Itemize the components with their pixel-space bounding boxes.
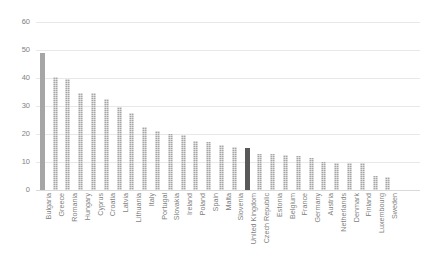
bar-united-kingdom[interactable] <box>245 148 250 190</box>
x-axis-slot: Slovenia <box>228 193 241 273</box>
x-axis-slot: United Kingdom <box>241 193 254 273</box>
bar-slot <box>138 22 151 190</box>
x-axis-slot: Austria <box>318 193 331 273</box>
bar-netherlands[interactable] <box>334 163 339 190</box>
y-axis-tick-label: 20 <box>22 130 30 138</box>
bar-slot <box>215 22 228 190</box>
y-axis-tick-label: 0 <box>26 186 30 194</box>
y-axis-tick-label: 50 <box>22 46 30 54</box>
bar-slot <box>254 22 267 190</box>
bar-slot <box>126 22 139 190</box>
y-axis-tick-label: 10 <box>22 158 30 166</box>
bar-germany[interactable] <box>309 158 314 190</box>
x-axis-tick-label: Sweden <box>391 193 398 219</box>
x-axis-slot: Germany <box>305 193 318 273</box>
bar-slot <box>305 22 318 190</box>
bar-slovenia[interactable] <box>232 147 237 190</box>
y-axis-tick-label: 40 <box>22 74 30 82</box>
bar-slot <box>266 22 279 190</box>
x-axis-slot: Greece <box>49 193 62 273</box>
bar-slot <box>369 22 382 190</box>
bar-slot <box>151 22 164 190</box>
bar-sweden[interactable] <box>385 177 390 190</box>
y-axis-tick-label: 30 <box>22 102 30 110</box>
bar-slot <box>292 22 305 190</box>
x-axis-slot: Slovakia <box>164 193 177 273</box>
bar-slovakia[interactable] <box>168 134 173 190</box>
bar-romania[interactable] <box>65 79 70 190</box>
x-axis-slot: Latvia <box>113 193 126 273</box>
bar-slot <box>228 22 241 190</box>
x-axis-slot: Finland <box>356 193 369 273</box>
bar-slot <box>318 22 331 190</box>
y-axis: 0102030405060 <box>0 0 36 276</box>
bar-malta[interactable] <box>219 145 224 190</box>
bar-slot <box>343 22 356 190</box>
bar-chart: 0102030405060 BulgariaGreeceRomaniaHunga… <box>0 0 424 276</box>
bar-slot <box>113 22 126 190</box>
x-axis-slot: Spain <box>202 193 215 273</box>
x-axis-slot: Estonia <box>266 193 279 273</box>
bar-lithuania[interactable] <box>129 113 134 190</box>
bar-latvia[interactable] <box>117 107 122 190</box>
bar-portugal[interactable] <box>155 131 160 190</box>
x-axis-slot: France <box>292 193 305 273</box>
bar-slot <box>177 22 190 190</box>
bar-slot <box>382 22 395 190</box>
x-axis-slot: Ireland <box>177 193 190 273</box>
bar-hungary[interactable] <box>78 93 83 190</box>
bar-estonia[interactable] <box>270 154 275 190</box>
bar-belgium[interactable] <box>283 155 288 190</box>
bar-slot <box>241 22 254 190</box>
bar-slot <box>100 22 113 190</box>
bar-cyprus[interactable] <box>91 93 96 190</box>
bar-slot <box>356 22 369 190</box>
bar-bulgaria[interactable] <box>40 53 45 190</box>
x-axis-slot: Netherlands <box>330 193 343 273</box>
bar-series <box>36 22 420 190</box>
bar-spain[interactable] <box>206 142 211 190</box>
x-axis-slot: Portugal <box>151 193 164 273</box>
bar-slot <box>164 22 177 190</box>
x-axis-slot: Sweden <box>382 193 395 273</box>
bar-slot <box>36 22 49 190</box>
bar-slot <box>202 22 215 190</box>
x-axis-slot: Czech Republic <box>254 193 267 273</box>
bar-ireland[interactable] <box>181 135 186 190</box>
bar-france[interactable] <box>296 156 301 190</box>
x-axis-slot: Romania <box>62 193 75 273</box>
x-axis-slot: Hungary <box>74 193 87 273</box>
x-axis-slot: Cyprus <box>87 193 100 273</box>
x-axis: BulgariaGreeceRomaniaHungaryCyprusCroati… <box>36 193 420 273</box>
x-axis-slot: Lithuania <box>126 193 139 273</box>
x-axis-slot: Malta <box>215 193 228 273</box>
gridline <box>36 190 420 191</box>
bar-croatia[interactable] <box>104 99 109 190</box>
bar-czech-republic[interactable] <box>257 154 262 190</box>
bar-slot <box>87 22 100 190</box>
bar-slot <box>74 22 87 190</box>
bar-slot <box>49 22 62 190</box>
bar-luxembourg[interactable] <box>373 176 378 190</box>
y-axis-tick-label: 60 <box>22 18 30 26</box>
bar-poland[interactable] <box>193 141 198 190</box>
bar-slot <box>330 22 343 190</box>
x-axis-slot: Belgium <box>279 193 292 273</box>
bar-italy[interactable] <box>142 127 147 190</box>
x-axis-slot: Bulgaria <box>36 193 49 273</box>
bar-slot <box>62 22 75 190</box>
bar-austria[interactable] <box>321 162 326 190</box>
bar-greece[interactable] <box>53 77 58 190</box>
bar-slot <box>279 22 292 190</box>
x-axis-slot: Italy <box>138 193 151 273</box>
bar-denmark[interactable] <box>347 163 352 190</box>
x-axis-slot: Poland <box>190 193 203 273</box>
x-axis-slot: Croatia <box>100 193 113 273</box>
bar-slot <box>190 22 203 190</box>
bar-finland[interactable] <box>360 163 365 190</box>
x-axis-slot: Luxembourg <box>369 193 382 273</box>
plot-area <box>36 22 420 190</box>
x-axis-slot: Denmark <box>343 193 356 273</box>
